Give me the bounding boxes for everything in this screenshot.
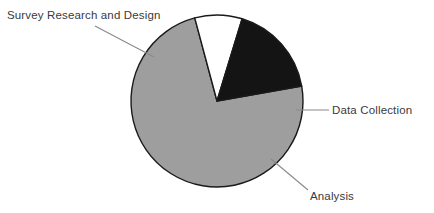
pie-label-survey-research-and-design: Survey Research and Design (7, 9, 160, 22)
pie-chart-figure: Survey Research and Design Data Collecti… (0, 0, 434, 213)
leader-line-analysis (271, 159, 308, 190)
leader-line-survey-research-and-design (95, 26, 154, 57)
pie-label-analysis: Analysis (310, 190, 354, 203)
pie-label-data-collection: Data Collection (332, 104, 412, 117)
